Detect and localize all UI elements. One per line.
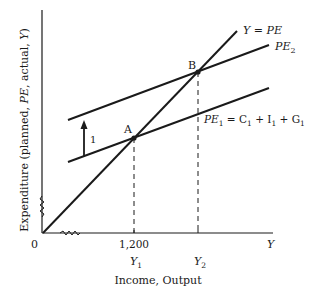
shift-arrowhead-icon [81,120,88,129]
y-axis-label: Expenditure (planned, PE, actual, Y) [18,28,31,232]
shift-arrow-label: 1 [90,134,96,145]
pe1-line [68,88,269,162]
x-axis-end-label: Y [267,238,276,251]
y2-tick-label: Y2 [194,255,206,270]
origin-label: 0 [31,238,38,251]
point-a-label: A [123,123,133,136]
y1-value-label: 1,200 [119,238,149,250]
point-b-label: B [188,59,196,72]
y-equals-pe-label: Y = PE [243,24,282,37]
pe2-label: PE2 [274,40,296,55]
keynesian-cross-diagram: 1 A B Y = PE PE2 PE1 = C1 + I1 + G1 0 1,… [0,0,317,296]
y1-tick-label: Y1 [130,255,142,270]
x-axis-label: Income, Output [114,274,202,287]
pe1-equation-label: PE1 = C1 + I1 + G1 [203,113,305,128]
point-a-marker [131,135,136,140]
y-equals-pe-line [43,31,237,233]
pe2-line [68,45,269,120]
point-b-marker [195,69,200,74]
